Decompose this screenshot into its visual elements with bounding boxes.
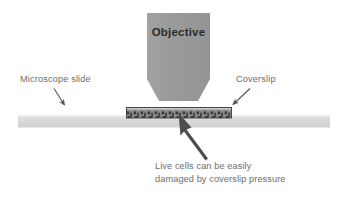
coverslip-callout: Coverslip	[233, 74, 276, 105]
live-cells-caption-line2: damaged by coverslip pressure	[155, 174, 286, 184]
microscope-slide-arrow-icon	[54, 89, 65, 106]
live-cells-caption-line1: Live cells can be easily	[155, 161, 252, 171]
microscope-diagram-figure: Objective Microscope slide Coverslip Li	[0, 0, 348, 197]
objective-lens: Objective	[147, 13, 210, 101]
microscope-slide-callout: Microscope slide	[20, 74, 91, 105]
microscope-slide-label: Microscope slide	[20, 74, 91, 84]
diagram-canvas: Objective Microscope slide Coverslip Li	[0, 0, 348, 197]
coverslip-label: Coverslip	[236, 74, 276, 84]
objective-label: Objective	[152, 26, 206, 38]
coverslip-arrow-icon	[233, 89, 250, 105]
